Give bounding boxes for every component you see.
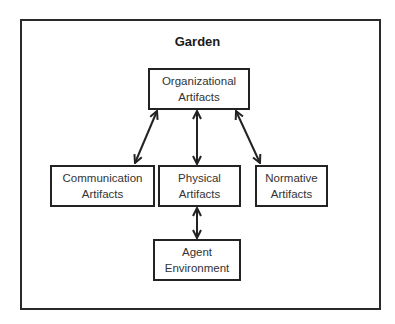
node-label-line2: Artifacts	[265, 186, 317, 202]
arrow-organizational-communication	[135, 111, 157, 163]
node-label-line2: Artifacts	[162, 89, 236, 105]
node-label-line1: Organizational	[162, 73, 236, 89]
node-label-line1: Physical	[178, 170, 221, 186]
node-normative-artifacts: Normative Artifacts	[255, 165, 328, 207]
node-label-line1: Normative	[265, 170, 317, 186]
node-label-line2: Artifacts	[63, 186, 143, 202]
node-label-line1: Agent	[165, 244, 230, 260]
node-label-line1: Communication	[63, 170, 143, 186]
node-communication-artifacts: Communication Artifacts	[50, 165, 155, 207]
node-agent-environment: Agent Environment	[153, 239, 241, 281]
node-physical-artifacts: Physical Artifacts	[158, 165, 241, 207]
node-label-line2: Artifacts	[178, 186, 221, 202]
node-label-line2: Environment	[165, 260, 230, 276]
arrow-organizational-normative	[236, 111, 260, 163]
node-organizational-artifacts: Organizational Artifacts	[148, 68, 250, 110]
